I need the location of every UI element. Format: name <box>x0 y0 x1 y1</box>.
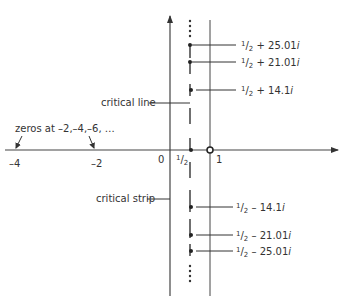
zero-marker <box>188 43 236 47</box>
tick-label-one: 1 <box>216 154 222 165</box>
zero-marker <box>189 205 233 209</box>
tick-label-half: 1/2 <box>176 154 188 167</box>
critical-line-label: critical line <box>101 97 156 108</box>
zero-label: 1/2 + 25.01i <box>241 40 300 53</box>
zero-label: 1/2 + 21.01i <box>241 57 300 70</box>
trivial-zeros-label: zeros at –2,–4,–6, … <box>15 123 115 134</box>
critical-strip-label: critical strip <box>96 193 155 204</box>
pole-at-one-icon <box>207 147 213 153</box>
ellipsis-top-icon <box>189 20 191 37</box>
half-point <box>189 148 193 152</box>
ellipsis-bottom-icon <box>189 265 191 282</box>
zero-marker <box>188 60 236 64</box>
arrow-to-minus-4 <box>16 136 22 148</box>
tick-label-minus-2: –2 <box>91 158 102 169</box>
zero-marker <box>189 88 236 92</box>
zero-marker <box>189 233 233 237</box>
zeta-zeros-diagram: 1/2 + 25.01i 1/2 + 21.01i 1/2 + 14.1i 1/… <box>0 0 348 296</box>
zero-label: 1/2 – 21.01i <box>236 230 291 243</box>
tick-label-zero: 0 <box>158 154 164 165</box>
zero-label: 1/2 – 25.01i <box>236 246 291 259</box>
arrow-to-minus-2 <box>89 136 94 148</box>
zero-label: 1/2 + 14.1i <box>241 85 293 98</box>
zero-label: 1/2 – 14.1i <box>236 202 285 215</box>
zero-marker <box>189 249 233 253</box>
tick-label-minus-4: –4 <box>9 158 20 169</box>
